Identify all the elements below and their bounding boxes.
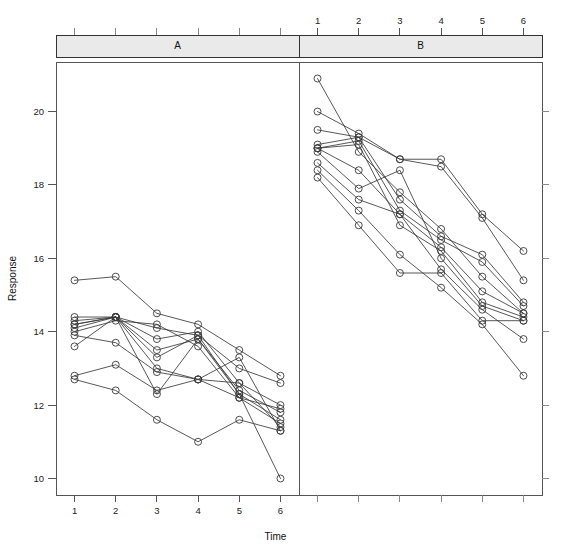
x-axis-tick-label: 3 bbox=[154, 505, 159, 516]
series-line bbox=[318, 178, 524, 321]
series-B9 bbox=[314, 159, 527, 342]
y-axis: 101214161820 bbox=[33, 106, 56, 484]
panel-A: A123456 bbox=[56, 28, 299, 516]
strip-label-B: B bbox=[417, 40, 424, 51]
series-line bbox=[75, 317, 281, 405]
series-layer-A bbox=[71, 273, 284, 482]
x-axis-tick-label: 5 bbox=[480, 15, 485, 26]
series-layer-B bbox=[314, 75, 527, 379]
y-axis-title: Response bbox=[7, 256, 18, 301]
trellis-chart-figure: 101214161820ResponseA123456B123456Time bbox=[0, 0, 562, 556]
series-line bbox=[318, 152, 524, 321]
series-A6 bbox=[71, 317, 284, 427]
y-axis-tick-label: 16 bbox=[33, 253, 44, 264]
x-axis-tick-label: 6 bbox=[521, 15, 526, 26]
series-line bbox=[75, 317, 281, 383]
panel-frame-B bbox=[299, 62, 542, 495]
series-line bbox=[75, 335, 281, 427]
x-axis-tick-label: 6 bbox=[278, 505, 283, 516]
x-axis-tick-label: 1 bbox=[72, 505, 77, 516]
series-line bbox=[318, 137, 524, 302]
series-B1 bbox=[314, 75, 527, 317]
series-B3 bbox=[314, 126, 527, 283]
x-axis-tick-label: 5 bbox=[237, 505, 242, 516]
series-A11 bbox=[71, 314, 284, 482]
series-A10 bbox=[71, 376, 284, 445]
panel-B: B123456 bbox=[299, 15, 549, 502]
y-axis-tick-label: 12 bbox=[33, 400, 44, 411]
series-line bbox=[318, 112, 524, 251]
x-axis-tick-label: 3 bbox=[397, 15, 402, 26]
series-line bbox=[75, 277, 281, 376]
y-axis-tick-label: 18 bbox=[33, 179, 44, 190]
series-line bbox=[318, 163, 524, 339]
series-B6 bbox=[314, 145, 527, 317]
series-A4 bbox=[71, 314, 284, 416]
series-B11 bbox=[314, 174, 527, 324]
series-line bbox=[318, 148, 524, 313]
y-axis-tick-label: 20 bbox=[33, 106, 44, 117]
x-axis-tick-label: 2 bbox=[356, 15, 361, 26]
x-axis-tick-label: 1 bbox=[315, 15, 320, 26]
series-line bbox=[318, 79, 524, 314]
series-line bbox=[75, 317, 281, 431]
x-axis-tick-label: 2 bbox=[113, 505, 118, 516]
x-axis-tick-label: 4 bbox=[438, 15, 443, 26]
series-line bbox=[75, 365, 281, 409]
series-A3 bbox=[71, 314, 284, 409]
x-axis-tick-label: 4 bbox=[195, 505, 200, 516]
x-axis-title: Time bbox=[265, 531, 287, 542]
y-axis-tick-label: 14 bbox=[33, 326, 44, 337]
y-axis-tick-label: 10 bbox=[33, 473, 44, 484]
series-line bbox=[318, 130, 524, 280]
strip-label-A: A bbox=[174, 40, 181, 51]
chart-canvas: 101214161820ResponseA123456B123456Time bbox=[0, 0, 562, 556]
